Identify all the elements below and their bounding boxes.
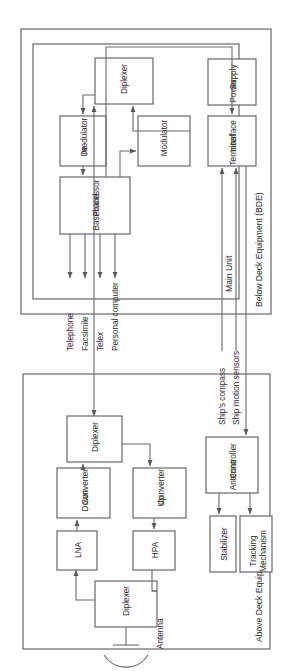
block-diplexer-bde-label: Diplexer xyxy=(120,64,129,94)
block-demodulator-line2: modulator xyxy=(80,118,89,155)
block-stabilizer-label: Stabilizer xyxy=(220,527,229,561)
external-output-personal-computer: Personal computer xyxy=(111,282,120,351)
diagram-canvas: Below Deck Equipment (BDE) Main Unit Bas… xyxy=(0,0,291,671)
external-output-telex: Telex xyxy=(96,332,105,351)
antenna-icon xyxy=(104,627,148,667)
block-diagram-svg: Below Deck Equipment (BDE) Main Unit Bas… xyxy=(0,0,291,671)
label-below-deck-equipment: Below Deck Equipment (BDE) xyxy=(254,192,264,307)
block-hpa-label: HPA xyxy=(151,541,160,558)
block-baseband-processor-line2: Processor xyxy=(92,179,101,216)
rotated-artwork: Below Deck Equipment (BDE) Main Unit Bas… xyxy=(0,0,291,671)
block-tracking-mechanism-line1: Tracking xyxy=(249,535,258,567)
block-down-converter-line2: Converter xyxy=(81,469,90,505)
label-main-unit: Main Unit xyxy=(224,255,234,292)
block-diplexer-ade-top-label: Diplexer xyxy=(91,422,100,452)
external-output-arrows xyxy=(70,234,115,278)
block-terminal-interface-line2: Interface xyxy=(229,120,238,152)
external-input-ship-motion-sensors: Ship motion sensors xyxy=(232,351,241,425)
external-input-ships-compass: Ship's compass xyxy=(218,368,227,425)
block-power-supply-line2: Supply xyxy=(229,64,238,90)
block-up-converter-line2: Converter xyxy=(157,469,166,505)
external-output-telephone: Telephone xyxy=(66,313,75,351)
external-output-facsimile: Facsimile xyxy=(81,316,90,351)
block-modulator-label: Modulator xyxy=(160,120,169,157)
block-lna-label: LNA xyxy=(74,542,83,558)
block-tracking-mechanism-line2: Mechanism xyxy=(259,530,268,572)
block-diplexer-ade-bottom-label: Diplexer xyxy=(122,586,131,616)
label-antenna: Antenna xyxy=(156,618,165,649)
block-antenna-controller-line2: Controller xyxy=(229,443,238,479)
